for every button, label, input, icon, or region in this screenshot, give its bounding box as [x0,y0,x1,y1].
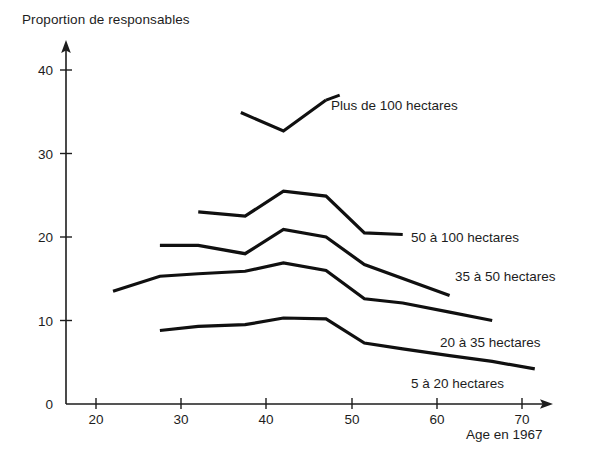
y-tick-label-20: 20 [38,230,53,245]
chart-plot-area: 40 30 20 10 0 20 30 40 50 60 70 P [0,0,605,449]
y-tick-label-30: 30 [38,147,53,162]
y-tick-label-10: 10 [38,314,53,329]
axis-group [61,40,553,409]
series-label-50-a-100-hectares: 50 à 100 hectares [411,230,519,245]
series-line-35-50-hectares [160,229,450,295]
series-line-50-100-hectares [198,191,402,234]
y-tick-label-40: 40 [38,63,53,78]
x-tick-label-40: 40 [258,412,273,427]
series-label-plus-de-100-hectares: Plus de 100 hectares [331,98,458,113]
series-label-35-a-50-hectares: 35 à 50 hectares [455,269,556,284]
y-tick-label-0: 0 [45,397,53,412]
x-tick-label-60: 60 [429,412,444,427]
y-tick-labels: 40 30 20 10 0 [38,63,53,412]
x-tick-label-70: 70 [514,412,529,427]
chart-figure: Proportion de responsables 40 30 20 10 0 [0,0,605,449]
series-label-5-a-20-hectares: 5 à 20 hectares [411,376,504,391]
x-tick-label-20: 20 [88,412,103,427]
x-axis-title: Age en 1967 [466,427,543,442]
x-tick-label-30: 30 [173,412,188,427]
x-tick-labels: 20 30 40 50 60 70 [88,412,529,427]
x-tick-label-50: 50 [344,412,359,427]
series-label-20-a-35-hectares: 20 à 35 hectares [440,335,541,350]
series-line-plus-de-100-hectares [241,100,326,131]
series-label-layer: Plus de 100 hectares 50 à 100 hectares 3… [331,98,556,391]
